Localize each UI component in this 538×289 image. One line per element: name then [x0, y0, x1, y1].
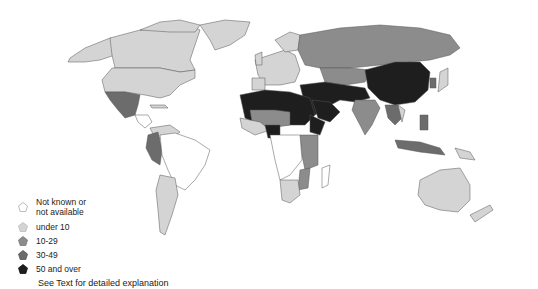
region-south-africa [280, 180, 300, 203]
region-iberia [252, 78, 265, 90]
region-central-america [135, 115, 152, 128]
legend-item-50-over: 50 and over [18, 262, 86, 276]
legend-item-under-10: under 10 [18, 220, 86, 234]
pentagon-dark-gray-icon [18, 250, 28, 260]
pentagon-black-icon [18, 264, 28, 274]
region-uk [255, 52, 262, 65]
legend-label: 50 and over [36, 264, 81, 274]
explanation-note: See Text for detailed explanation [38, 278, 168, 288]
region-new-zealand [470, 205, 493, 222]
legend-label: 10-29 [36, 236, 58, 246]
region-indonesia [395, 140, 445, 155]
region-mozambique [298, 168, 310, 190]
region-argentina-chile [156, 175, 178, 235]
region-india [352, 100, 380, 135]
legend-item-30-49: 30-49 [18, 248, 86, 262]
region-russia [298, 25, 460, 68]
region-china [365, 62, 430, 105]
legend-item-not-available: Not known or not available [18, 194, 86, 220]
region-australia [418, 168, 470, 212]
region-philippines [420, 115, 428, 130]
region-scandinavia [275, 32, 300, 52]
pentagon-white-icon [18, 202, 28, 212]
legend-label: 30-49 [36, 250, 58, 260]
legend-label-line2: not available [36, 207, 86, 217]
legend-label-line1: Not known or [36, 197, 86, 207]
map-legend: Not known or not available under 10 10-2… [18, 194, 86, 276]
region-caribbean [150, 105, 168, 108]
region-canada-islands [140, 20, 200, 32]
region-east-africa [300, 135, 318, 170]
region-mexico [105, 92, 140, 118]
pentagon-light-gray-icon [18, 222, 28, 232]
region-korea [430, 78, 436, 88]
legend-label: under 10 [36, 222, 70, 232]
region-central-africa [270, 135, 302, 180]
legend-item-10-29: 10-29 [18, 234, 86, 248]
region-greenland [200, 20, 250, 50]
region-madagascar [322, 165, 330, 188]
region-japan [438, 68, 448, 92]
pentagon-medium-gray-icon [18, 236, 28, 246]
region-papua [455, 148, 475, 160]
